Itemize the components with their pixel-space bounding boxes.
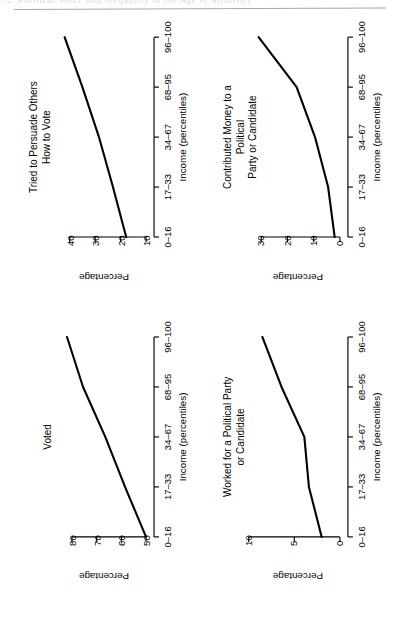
x-axis-title: Income (percentiles) — [371, 393, 382, 482]
x-axis-tick-label: 96–100 — [162, 21, 173, 53]
x-axis-tick-label: 96–100 — [356, 321, 367, 353]
x-axis-title: Income (percentiles) — [177, 93, 188, 182]
x-axis-title: Income (percentiles) — [177, 393, 188, 482]
x-axis-tick-label: 68–95 — [162, 74, 173, 100]
page-folio: 72 — [2, 0, 11, 5]
x-axis-tick-label: 68–95 — [162, 374, 173, 400]
x-axis-tick-label: 34–67 — [162, 424, 173, 450]
chart-panel: 506070800–1617–3334–6768–9596–100Income … — [8, 311, 198, 599]
x-axis-tick-label: 68–95 — [356, 74, 367, 100]
y-axis-title: Percentage — [79, 272, 129, 283]
chart-panel-title: Worked for a Political Party or Candidat… — [222, 377, 247, 497]
data-series-line — [65, 37, 127, 237]
x-axis-tick-label: 34–67 — [356, 124, 367, 150]
chart-plot-area — [8, 311, 198, 599]
x-axis-tick-label: 0–16 — [356, 526, 367, 547]
x-axis-title: Income (percentiles) — [371, 93, 382, 182]
x-axis-tick-label: 0–16 — [162, 526, 173, 547]
data-series-line — [262, 337, 321, 537]
x-axis-tick-label: 68–95 — [356, 374, 367, 400]
x-axis-tick-label: 96–100 — [356, 21, 367, 53]
chart-panel-title: Contributed Money to a Political Party o… — [222, 74, 259, 200]
y-axis-title: Percentage — [273, 571, 323, 582]
chart-panel: 102030400–1617–3334–6768–9596–100Income … — [8, 11, 198, 299]
x-axis-tick-label: 17–33 — [162, 474, 173, 500]
chart-panel: 05100–1617–3334–6768–9596–100Income (per… — [202, 311, 392, 599]
figure-panel-grid: 506070800–1617–3334–6768–9596–100Income … — [4, 11, 396, 611]
x-axis-tick-label: 34–67 — [162, 124, 173, 150]
running-head: Political Voice and Inequality in the Ag… — [18, 0, 378, 5]
y-axis-title: Percentage — [273, 272, 323, 283]
x-axis-tick-label: 0–16 — [356, 226, 367, 247]
data-series-line — [259, 37, 335, 237]
chart-panel-title: Voted — [42, 424, 54, 450]
x-axis-tick-label: 0–16 — [162, 226, 173, 247]
header-rule — [14, 7, 386, 10]
x-axis-tick-label: 96–100 — [162, 321, 173, 353]
chart-panel-title: Tried to Persuade Others How to Vote — [28, 81, 53, 193]
x-axis-tick-label: 17–33 — [356, 174, 367, 200]
x-axis-tick-label: 34–67 — [356, 424, 367, 450]
y-axis-title: Percentage — [79, 571, 129, 582]
data-series-line — [67, 337, 146, 537]
x-axis-tick-label: 17–33 — [162, 174, 173, 200]
chart-panel: 01020300–1617–3334–6768–9596–100Income (… — [202, 11, 392, 299]
x-axis-tick-label: 17–33 — [356, 474, 367, 500]
figure-inner: 506070800–1617–3334–6768–9596–100Income … — [4, 11, 396, 611]
